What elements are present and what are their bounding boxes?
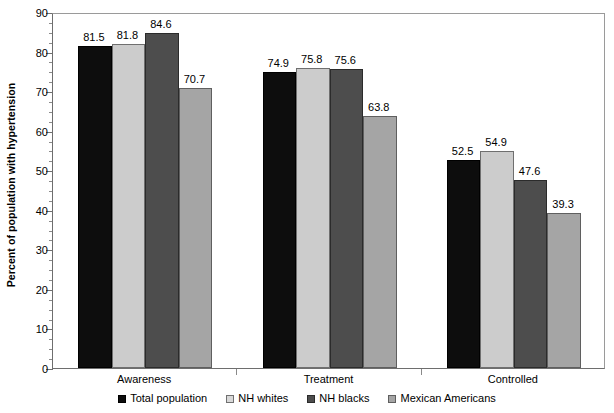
bar xyxy=(480,151,514,368)
y-tick-label: 10 xyxy=(18,324,48,335)
y-tick-label: 80 xyxy=(18,47,48,58)
bar xyxy=(263,72,297,368)
legend-swatch-icon xyxy=(118,395,126,403)
legend-item[interactable]: Total population xyxy=(118,393,207,404)
legend-item[interactable]: NH blacks xyxy=(307,393,369,404)
bar xyxy=(112,44,146,368)
legend-item[interactable]: NH whites xyxy=(226,393,288,404)
legend-swatch-icon xyxy=(226,395,234,403)
bar-value-label: 84.6 xyxy=(138,19,184,30)
bar-value-label: 81.8 xyxy=(105,30,151,41)
y-tick-label: 60 xyxy=(18,126,48,137)
bar xyxy=(296,68,330,368)
bar-value-label: 63.8 xyxy=(356,102,402,113)
chart-legend: Total populationNH whitesNH blacksMexica… xyxy=(0,393,614,404)
bar-value-label: 70.7 xyxy=(172,74,218,85)
legend-item-label: NH blacks xyxy=(319,393,369,404)
legend-item-label: Mexican Americans xyxy=(400,393,495,404)
legend-item-label: NH whites xyxy=(238,393,288,404)
x-category-label: Awareness xyxy=(52,374,236,385)
bar-value-label: 47.6 xyxy=(507,166,553,177)
bar xyxy=(547,213,581,368)
bar-value-label: 54.9 xyxy=(473,137,519,148)
bar xyxy=(78,46,112,368)
plot-area xyxy=(52,13,605,369)
y-axis-title-text: Percent of population with hypertension xyxy=(5,82,17,287)
bar xyxy=(330,69,364,368)
y-tick-label: 40 xyxy=(18,205,48,216)
bar xyxy=(447,160,481,368)
x-category-label: Treatment xyxy=(236,374,420,385)
x-category-label: Controlled xyxy=(421,374,605,385)
bar xyxy=(363,116,397,368)
y-tick-label: 30 xyxy=(18,245,48,256)
bar xyxy=(179,88,213,368)
y-tick-label: 20 xyxy=(18,284,48,295)
legend-item[interactable]: Mexican Americans xyxy=(388,393,495,404)
y-tick-label: 0 xyxy=(18,364,48,375)
bar-value-label: 39.3 xyxy=(540,199,586,210)
legend-swatch-icon xyxy=(388,395,396,403)
legend-swatch-icon xyxy=(307,395,315,403)
y-tick-label: 70 xyxy=(18,87,48,98)
y-tick-label: 90 xyxy=(18,8,48,19)
y-tick-label: 50 xyxy=(18,166,48,177)
bar-chart: Percent of population with hypertension … xyxy=(0,0,614,413)
bar-value-label: 52.5 xyxy=(440,146,486,157)
legend-item-label: Total population xyxy=(130,393,207,404)
bar-value-label: 75.6 xyxy=(323,55,369,66)
